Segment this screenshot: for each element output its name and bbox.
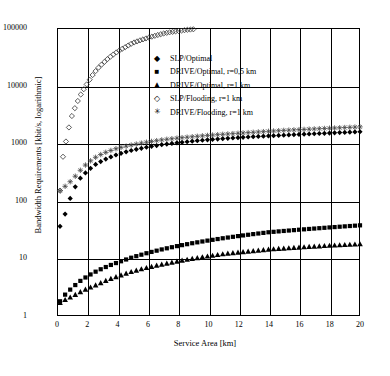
legend-item-label: DRIVE/Optimal, r=1 km [170, 79, 250, 92]
gridline-horizontal [58, 259, 359, 260]
x-tick-label: 8 [166, 320, 190, 329]
legend-marker-icon: ◆ [150, 55, 164, 63]
gridline-horizontal [58, 144, 359, 145]
x-tick-label: 12 [227, 320, 251, 329]
legend-item-label: SLP/Optimal [170, 52, 212, 65]
y-axis-label: Bandwidth Requirements [kbit/s, logarith… [33, 25, 43, 285]
gridline-vertical [331, 29, 332, 315]
x-tick-label: 16 [287, 320, 311, 329]
y-tick-label: 10000 [0, 81, 27, 90]
gridline-vertical [270, 29, 271, 315]
legend-marker-icon: ◇ [150, 95, 164, 103]
legend-item-label: DRIVE/Flooding, r=1 km [170, 106, 253, 119]
x-tick-label: 0 [45, 320, 69, 329]
y-tick-label: 100 [0, 196, 27, 205]
y-tick-label: 100000 [0, 23, 27, 32]
legend-item-label: SLP/Flooding, r=1 km [170, 92, 242, 105]
legend-item-label: DRIVE/Optimal, r=0,5 km [170, 65, 256, 78]
legend-marker-icon: ▲ [150, 81, 164, 89]
gridline-vertical [119, 29, 120, 315]
gridline-vertical [88, 29, 89, 315]
x-axis-label: Service Area [km] [0, 338, 390, 348]
legend-marker-icon: ■ [150, 68, 164, 76]
legend-item: ◆SLP/Optimal [150, 52, 256, 65]
legend-item: ■DRIVE/Optimal, r=0,5 km [150, 65, 256, 78]
x-tick-label: 2 [75, 320, 99, 329]
gridline-vertical [300, 29, 301, 315]
legend-marker-icon: ✳ [150, 108, 164, 116]
x-tick-label: 18 [318, 320, 342, 329]
x-axis-label-text: Service Area [km] [174, 338, 236, 348]
y-tick-label: 1 [0, 311, 27, 320]
legend-item: ▲DRIVE/Optimal, r=1 km [150, 79, 256, 92]
chart-container: 02468101214161820110100100010000100000 ◆… [0, 0, 390, 376]
x-tick-label: 4 [106, 320, 130, 329]
x-tick-label: 14 [257, 320, 281, 329]
y-tick-label: 1000 [0, 138, 27, 147]
y-tick-label: 10 [0, 253, 27, 262]
x-tick-label: 20 [348, 320, 372, 329]
x-tick-label: 6 [136, 320, 160, 329]
x-tick-label: 10 [197, 320, 221, 329]
legend-item: ✳DRIVE/Flooding, r=1 km [150, 106, 256, 119]
gridline-horizontal [58, 202, 359, 203]
chart-legend: ◆SLP/Optimal■DRIVE/Optimal, r=0,5 km▲DRI… [150, 52, 256, 119]
legend-item: ◇SLP/Flooding, r=1 km [150, 92, 256, 105]
